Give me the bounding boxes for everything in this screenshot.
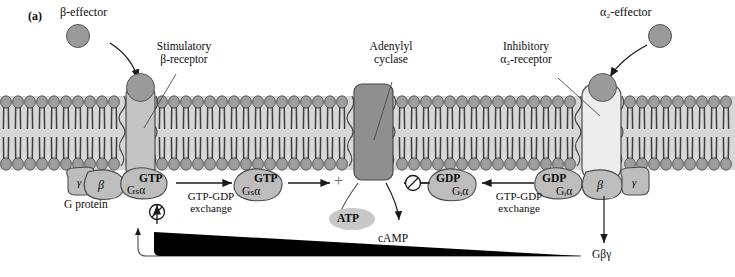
beta-subunit-label-left: β: [98, 179, 104, 192]
gbetagamma-label: Gβγ: [592, 248, 611, 261]
camp-product-arrow: [386, 183, 399, 220]
beta-effector-ligand: [66, 24, 90, 48]
adenylyl-cyclase-line2: cyclase: [356, 53, 426, 66]
alpha2-effector-label: α₂-effector: [600, 6, 652, 19]
gialpha-label-right: Gᵢα: [556, 185, 572, 198]
inhibitory-receptor-label: Inhibitory α₂-receptor: [486, 40, 566, 66]
gsalpha-label-left: Gₛα: [127, 184, 145, 197]
beta-subunit-label-right: β: [597, 179, 603, 192]
g-protein-beta-subunit-left: [84, 170, 124, 200]
gtp-label-free: GTP: [254, 172, 278, 185]
beta-effector-label: β-effector: [60, 6, 107, 19]
beta-effector-bound-ligand: [126, 73, 155, 102]
exchange-left-line2: exchange: [178, 202, 244, 214]
stimulatory-receptor-line1: Stimulatory: [148, 40, 220, 53]
atp-label: ATP: [337, 212, 359, 225]
stimulatory-receptor-line2: β-receptor: [148, 53, 220, 66]
alpha2-effector-binding-arrow: [610, 45, 647, 77]
gamma-subunit-label-right: γ: [632, 176, 636, 188]
exchange-label-right: GTP-GDP exchange: [486, 190, 552, 215]
activation-plus-sign: +: [334, 172, 343, 190]
alpha2-effector-ligand: [648, 24, 672, 48]
gialpha-label-free: Gᵢα: [452, 185, 468, 198]
panel-label: (a): [28, 10, 42, 23]
exchange-right-line1: GTP-GDP: [486, 190, 552, 202]
gdp-label-right: GDP: [542, 172, 566, 185]
stimulatory-receptor-label: Stimulatory β-receptor: [148, 40, 220, 66]
exchange-right-line2: exchange: [486, 202, 552, 214]
exchange-label-left: GTP-GDP exchange: [178, 190, 244, 215]
inhibitory-receptor-line1: Inhibitory: [486, 40, 566, 53]
exchange-left-line1: GTP-GDP: [178, 190, 244, 202]
camp-label: cAMP: [378, 232, 408, 245]
gdp-label-free: GDP: [436, 172, 460, 185]
g-protein-label: G protein: [64, 198, 108, 211]
gamma-subunit-label-left: γ: [77, 176, 81, 188]
gsalpha-label-free: Gₛα: [242, 185, 260, 198]
adenylyl-cyclase-label: Adenylyl cyclase: [356, 40, 426, 66]
inhibitory-receptor-line2: α₂-receptor: [486, 53, 566, 66]
figure-panel-a: (a) β-effector Stimulatory β-receptor Ad…: [0, 0, 735, 277]
adenylyl-cyclase-line1: Adenylyl: [356, 40, 426, 53]
gtp-label-bound-left: GTP: [139, 172, 163, 185]
alpha2-effector-bound-ligand: [588, 73, 617, 102]
inhibition-symbol-cyclase: [406, 176, 421, 191]
